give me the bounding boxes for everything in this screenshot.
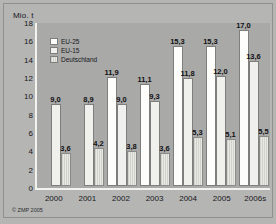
bar-value-label: 3,8 [126, 142, 136, 151]
bar-group: 11,99,03,8 [105, 23, 138, 186]
bar-value-label: 9,0 [116, 95, 126, 104]
legend-label: Deutschland [61, 56, 97, 63]
x-tick-label: 2004 [171, 194, 205, 203]
legend: EU-25EU-15Deutschland [50, 37, 97, 64]
x-tick-label: 2001 [71, 194, 105, 203]
bar-value-label: 15,3 [170, 37, 185, 46]
x-axis-ticks: 2000200120022003200420052006s [37, 194, 272, 203]
legend-swatch-de [50, 56, 58, 63]
bar-de: 3,6 [160, 153, 170, 186]
x-tick-label: 2006s [238, 194, 272, 203]
y-tick-label: 0 [29, 184, 33, 193]
legend-swatch-eu15 [50, 47, 58, 54]
y-tick-label: 6 [29, 129, 33, 138]
bar-value-label: 5,1 [225, 130, 235, 139]
legend-item: EU-15 [50, 46, 97, 54]
bar-de: 3,8 [127, 151, 137, 186]
x-tick-label: 2002 [104, 194, 138, 203]
y-tick-label: 2 [29, 165, 33, 174]
bar-value-label: 9,0 [50, 95, 60, 104]
bar-eu15: 13,6 [249, 61, 259, 186]
bar-value-label: 13,6 [246, 52, 261, 61]
y-tick-label: 16 [24, 37, 33, 46]
y-tick-label: 14 [24, 55, 33, 64]
bar-de: 3,6 [61, 153, 71, 186]
chart-frame: Mio. t 181614121086420 9,03,68,94,211,99… [3, 3, 273, 218]
y-tick-label: 10 [24, 92, 33, 101]
bar-value-label: 17,0 [236, 21, 251, 30]
x-tick-label: 2005 [205, 194, 239, 203]
legend-item: EU-25 [50, 37, 97, 45]
bar-eu15: 11,8 [183, 78, 193, 186]
bar-eu15: 12,0 [216, 76, 226, 186]
bar-eu25: 11,1 [140, 84, 150, 186]
bar-value-label: 8,9 [83, 95, 93, 104]
bar-value-label: 12,0 [213, 67, 228, 76]
x-tick-label: 2000 [37, 194, 71, 203]
bar-eu25: 11,9 [107, 77, 117, 186]
y-tick-label: 12 [24, 74, 33, 83]
bar-value-label: 3,6 [159, 144, 169, 153]
bar-value-label: 11,1 [137, 75, 151, 84]
x-tick-label: 2003 [138, 194, 172, 203]
chart-figure: Mio. t 181614121086420 9,03,68,94,211,99… [0, 0, 276, 224]
legend-label: EU-15 [61, 47, 79, 54]
y-tick-label: 4 [29, 147, 33, 156]
bar-eu15: 8,9 [84, 104, 94, 186]
legend-item: Deutschland [50, 55, 97, 63]
source-credit: © ZMP 2005 [12, 207, 43, 213]
legend-swatch-eu25 [50, 38, 58, 45]
y-tick-label: 8 [29, 110, 33, 119]
bar-value-label: 11,9 [104, 68, 118, 77]
bar-value-label: 11,8 [180, 69, 194, 78]
bar-eu15: 9,0 [51, 104, 61, 187]
bar-eu15: 9,3 [150, 101, 160, 186]
bar-eu15: 9,0 [117, 104, 127, 187]
bar-value-label: 15,3 [203, 37, 218, 46]
bar-group: 17,013,65,5 [237, 23, 270, 186]
bar-group: 15,312,05,1 [204, 23, 237, 186]
legend-label: EU-25 [61, 38, 79, 45]
bar-value-label: 4,2 [93, 139, 103, 148]
bar-de: 4,2 [94, 148, 104, 187]
bar-value-label: 5,3 [192, 128, 202, 137]
bar-de: 5,3 [193, 137, 203, 186]
bar-eu25: 15,3 [173, 46, 183, 186]
bar-value-label: 9,3 [149, 92, 159, 101]
bar-value-label: 3,6 [60, 144, 70, 153]
bar-group: 15,311,85,3 [171, 23, 204, 186]
bar-group: 11,19,33,6 [138, 23, 171, 186]
bar-de: 5,5 [259, 136, 269, 186]
bar-de: 5,1 [226, 139, 236, 186]
y-tick-label: 18 [24, 19, 33, 28]
bar-value-label: 5,5 [258, 127, 268, 136]
